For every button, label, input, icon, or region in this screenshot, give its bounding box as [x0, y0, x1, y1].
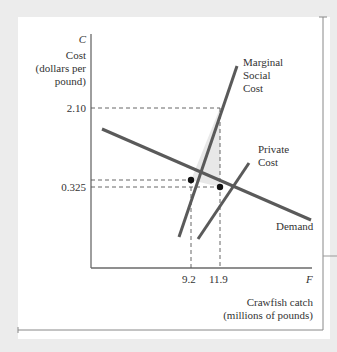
x-axis-title-line1: Crawfish catch: [180, 296, 313, 309]
demand-label: Demand: [276, 220, 313, 233]
msc-label-line1: Marginal: [243, 56, 283, 69]
y-axis-symbol: C: [60, 33, 86, 46]
y-axis-title-line3: pound): [20, 75, 86, 88]
msc-label-line2: Social: [243, 69, 271, 82]
private-cost-label-line1: Private: [258, 143, 289, 156]
msc-label-line3: Cost: [243, 82, 263, 95]
y-axis-title-line2: (dollars per: [20, 62, 86, 75]
y-axis-title-line1: Cost: [20, 49, 86, 62]
x-tick-9-2: 9.2: [182, 273, 196, 286]
private-cost-label-line2: Cost: [258, 156, 278, 169]
private-equilibrium-point: [217, 184, 223, 190]
x-axis-symbol: F: [306, 273, 313, 286]
x-axis-title-line2: (millions of pounds): [160, 309, 313, 322]
marginal-social-cost-curve: [179, 66, 237, 237]
x-tick-11-9: 11.9: [209, 273, 228, 286]
y-tick-2-10: 2.10: [40, 102, 86, 115]
social-optimum-point: [188, 177, 194, 183]
y-tick-0-325: 0.325: [40, 181, 86, 194]
